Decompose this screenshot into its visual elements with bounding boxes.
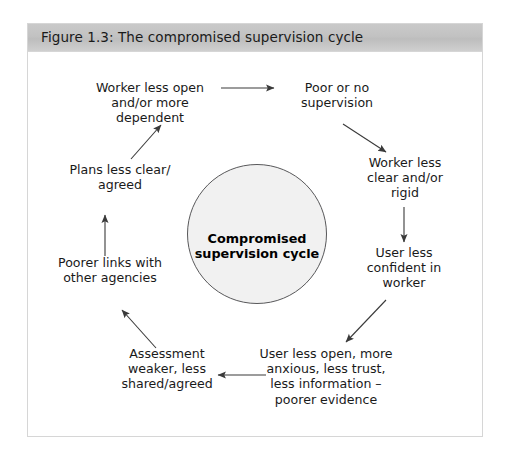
node-worker-less-clear: Worker less clear and/or rigid: [346, 155, 464, 201]
arrow-user-confident-to-user-open: [346, 300, 386, 342]
diagram-canvas: Compromised supervision cycle Worker les…: [28, 52, 482, 437]
figure-frame: Figure 1.3: The compromised supervision …: [27, 23, 483, 437]
node-user-less-confident: User less confident in worker: [348, 245, 460, 291]
arrow-assessment-to-poorer-links: [122, 310, 156, 348]
node-plans-less-clear: Plans less clear/ agreed: [54, 162, 186, 192]
arrow-plans-to-worker-open: [131, 125, 161, 159]
figure-title: Figure 1.3: The compromised supervision …: [41, 29, 363, 45]
center-circle-label: Compromised supervision cycle: [187, 231, 327, 262]
node-worker-less-open: Worker less open and/or more dependent: [86, 80, 214, 126]
node-assessment-weaker: Assessment weaker, less shared/agreed: [102, 346, 232, 392]
node-poor-or-no-supervision: Poor or no supervision: [278, 80, 396, 110]
arrow-poor-supervision-to-worker-clear: [343, 124, 386, 152]
node-poorer-links: Poorer links with other agencies: [44, 255, 176, 285]
node-user-less-open: User less open, more anxious, less trust…: [246, 346, 406, 407]
